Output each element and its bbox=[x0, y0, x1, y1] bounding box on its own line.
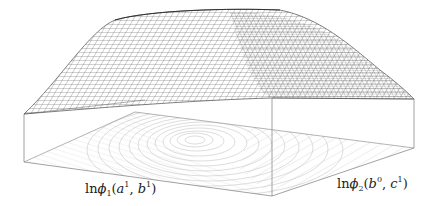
arg2-variable: b bbox=[138, 181, 146, 196]
y-axis-label: lnϕ2(b0, c1) bbox=[337, 176, 408, 193]
x-axis-label: lnϕ1(a1, b1) bbox=[85, 181, 156, 198]
close-paren: ) bbox=[403, 176, 408, 191]
ln-text: ln bbox=[337, 176, 350, 191]
separator: , bbox=[129, 181, 137, 196]
arg1-variable: b bbox=[369, 176, 377, 191]
close-paren: ) bbox=[151, 181, 156, 196]
arg2-variable: c bbox=[390, 176, 397, 191]
wireframe-surface bbox=[24, 9, 414, 114]
ln-text: ln bbox=[85, 181, 98, 196]
